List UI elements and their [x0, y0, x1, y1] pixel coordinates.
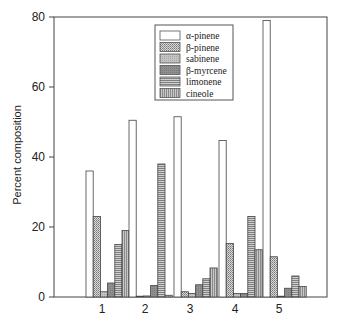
bar-white: [219, 141, 226, 297]
y-axis-title: Percent composition: [11, 105, 23, 205]
bar-horizontal: [158, 164, 165, 297]
bar-dense-dots: [226, 243, 233, 297]
bar-light-gray: [143, 296, 150, 297]
bar-vertical: [165, 295, 172, 297]
bar-horizontal: [248, 217, 255, 298]
legend-swatch: [160, 31, 180, 40]
bar-white: [86, 171, 93, 297]
y-tick-label: 60: [32, 80, 46, 94]
legend-label: β-myrcene: [186, 66, 227, 76]
bar-vertical: [299, 287, 306, 298]
bar-dark-gray: [196, 285, 203, 297]
bar-light-gray: [100, 292, 107, 297]
legend-label: limonene: [186, 77, 221, 87]
x-tick-label: 1: [99, 302, 106, 316]
legend-label: β-pinene: [186, 43, 219, 53]
legend-label: cineole: [186, 89, 213, 99]
legend-swatch: [160, 77, 180, 86]
bar-light-gray: [277, 296, 284, 297]
x-tick-label: 3: [187, 302, 194, 316]
y-axis: 020406080: [32, 10, 54, 304]
bar-dark-gray: [241, 294, 248, 298]
x-tick-label: 5: [276, 302, 283, 316]
bar-vertical: [210, 268, 217, 297]
bar-dark-gray: [151, 285, 158, 297]
bar-dense-dots: [93, 217, 100, 298]
x-tick-label: 4: [232, 302, 239, 316]
bar-dense-dots: [136, 296, 143, 297]
bar-chart: 020406080 12345 Percent composition α-pi…: [0, 0, 340, 319]
legend-label: sabinene: [186, 54, 219, 64]
bar-horizontal: [203, 279, 210, 297]
legend: α-pineneβ-pinenesabineneβ-myrcenelimonen…: [155, 25, 233, 100]
bar-vertical: [255, 250, 262, 297]
bar-white: [263, 21, 270, 298]
bar-horizontal: [292, 276, 299, 297]
x-axis: 12345: [99, 302, 283, 316]
legend-swatch: [160, 66, 180, 75]
legend-swatch: [160, 54, 180, 63]
bar-light-gray: [188, 294, 195, 298]
legend-swatch: [160, 89, 180, 98]
bar-white: [174, 117, 181, 297]
bar-vertical: [122, 231, 129, 298]
bar-dark-gray: [285, 288, 292, 297]
legend-label: α-pinene: [186, 31, 219, 41]
bar-dense-dots: [270, 257, 277, 297]
y-tick-label: 0: [38, 290, 45, 304]
y-tick-label: 20: [32, 220, 46, 234]
bar-dense-dots: [181, 292, 188, 297]
y-tick-label: 80: [32, 10, 46, 24]
bar-light-gray: [233, 294, 240, 298]
y-tick-label: 40: [32, 150, 46, 164]
bar-horizontal: [115, 245, 122, 298]
x-tick-label: 2: [142, 302, 149, 316]
bar-white: [129, 120, 136, 297]
legend-swatch: [160, 43, 180, 52]
bar-dark-gray: [108, 283, 115, 297]
